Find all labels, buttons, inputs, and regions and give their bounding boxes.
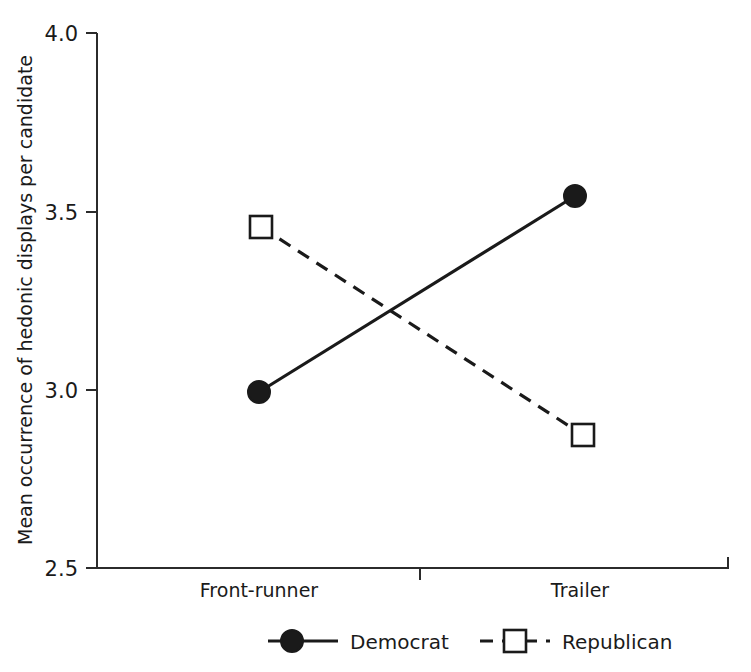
series-democrat-line (259, 196, 575, 392)
chart-legend: Democrat Republican (268, 630, 672, 654)
chart-container: 4.0 3.5 3.0 2.5 Front-runner Trailer Mea… (0, 0, 751, 672)
y-axis-title: Mean occurrence of hedonic displays per … (14, 55, 36, 545)
y-axis-ticks (86, 33, 97, 568)
x-category-label-front-runner: Front-runner (200, 579, 319, 601)
line-chart: 4.0 3.5 3.0 2.5 Front-runner Trailer Mea… (0, 0, 751, 672)
series-republican-line (261, 227, 583, 435)
legend-item-republican: Republican (480, 630, 672, 654)
x-category-label-trailer: Trailer (550, 579, 610, 601)
data-point-republican-trailer (572, 424, 594, 446)
y-tick-label-2-5: 2.5 (45, 557, 78, 581)
legend-label-republican: Republican (562, 630, 672, 654)
series-republican (250, 216, 594, 446)
legend-democrat-marker-icon (281, 630, 303, 652)
y-tick-label-3-0: 3.0 (45, 379, 78, 403)
series-democrat (248, 185, 586, 403)
data-point-republican-front-runner (250, 216, 272, 238)
legend-label-democrat: Democrat (350, 630, 449, 654)
legend-republican-marker-icon (504, 630, 526, 652)
y-tick-label-4-0: 4.0 (45, 22, 78, 46)
data-point-democrat-trailer (564, 185, 586, 207)
data-point-democrat-front-runner (248, 381, 270, 403)
y-tick-label-3-5: 3.5 (45, 201, 78, 225)
legend-item-democrat: Democrat (268, 630, 449, 654)
